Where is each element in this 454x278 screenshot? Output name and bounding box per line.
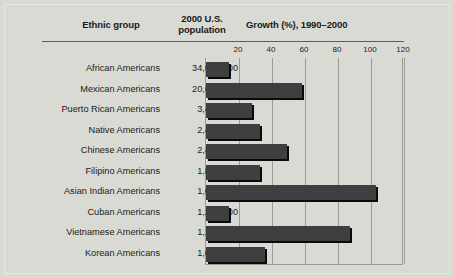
row-label-ethnic-group: Mexican Americans (40, 84, 160, 94)
row-label-ethnic-group: Vietnamese Americans (40, 227, 160, 237)
bar-growth (206, 226, 350, 241)
column-header-growth: Growth (%), 1990–2000 (246, 20, 347, 31)
row-label-ethnic-group: Chinese Americans (40, 145, 160, 155)
x-tick-label-60: 60 (300, 45, 309, 54)
bar-container (206, 226, 350, 241)
chart-row: African Americans34,658,000 (0, 60, 454, 81)
bar-container (206, 165, 260, 180)
column-header-population: 2000 U.S. population (166, 14, 238, 35)
row-label-ethnic-group: Filipino Americans (40, 166, 160, 176)
bar-growth (206, 124, 260, 139)
x-tick-label-40: 40 (267, 45, 276, 54)
bar-growth (206, 185, 376, 200)
bar-growth (206, 165, 260, 180)
chart-row: Asian Indian Americans1,679,000 (0, 183, 454, 204)
bar-container (206, 185, 376, 200)
bar-container (206, 144, 287, 159)
bar-container (206, 206, 229, 221)
chart-row: Native Americans2,476,000 (0, 122, 454, 143)
chart-row: Cuban Americans1,242,000 (0, 204, 454, 225)
bar-growth (206, 144, 287, 159)
bar-container (206, 247, 265, 262)
chart-figure: Ethnic group 2000 U.S. population Growth… (0, 0, 454, 278)
column-header-population-line2: population (166, 25, 238, 36)
bar-growth (206, 247, 265, 262)
bar-container (206, 103, 252, 118)
bar-container (206, 83, 302, 98)
header-divider (42, 41, 404, 42)
x-tick-label-120: 120 (396, 45, 409, 54)
x-axis-ticks: 20406080100120 (205, 45, 403, 57)
bar-growth (206, 83, 302, 98)
column-header-population-line1: 2000 U.S. (166, 14, 238, 25)
bar-container (206, 62, 229, 77)
x-tick-label-20: 20 (234, 45, 243, 54)
x-tick-label-100: 100 (363, 45, 376, 54)
row-label-ethnic-group: Native Americans (40, 125, 160, 135)
chart-row: Puerto Rican Americans3,406,000 (0, 101, 454, 122)
column-header-ethnic-group: Ethnic group (62, 20, 160, 31)
row-label-ethnic-group: Cuban Americans (40, 207, 160, 217)
bar-growth (206, 206, 229, 221)
row-label-ethnic-group: Asian Indian Americans (40, 186, 160, 196)
bar-container (206, 124, 260, 139)
row-label-ethnic-group: Korean Americans (40, 248, 160, 258)
row-label-ethnic-group: Puerto Rican Americans (40, 104, 160, 114)
chart-row: Chinese Americans2,433,000 (0, 142, 454, 163)
row-label-ethnic-group: African Americans (40, 63, 160, 73)
x-tick-label-80: 80 (333, 45, 342, 54)
chart-row: Korean Americans1,077,000 (0, 245, 454, 266)
chart-row: Filipino Americans1,850,000 (0, 163, 454, 184)
bar-growth (206, 62, 229, 77)
chart-row: Mexican Americans20,641,000 (0, 81, 454, 102)
chart-row: Vietnamese Americans1,123,000 (0, 224, 454, 245)
bar-growth (206, 103, 252, 118)
